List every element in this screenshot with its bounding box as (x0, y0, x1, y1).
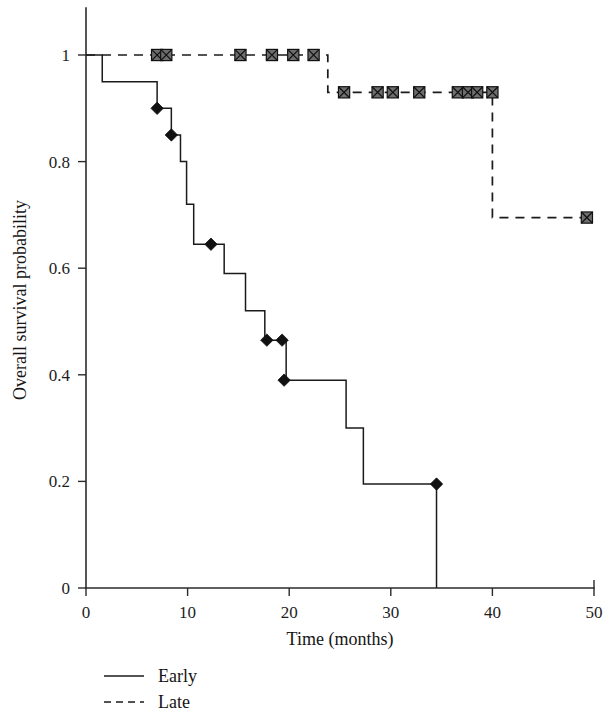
x-axis-title: Time (months) (287, 629, 394, 650)
legend-label-early: Early (158, 666, 197, 686)
survival-curve-figure: 00.20.40.60.81 01020304050 Time (months)… (0, 0, 606, 718)
event-marker-diamond (151, 102, 163, 114)
x-tick-label: 0 (82, 603, 91, 622)
series-line-early (86, 55, 437, 588)
x-tick-label: 50 (586, 603, 603, 622)
x-tick-label: 30 (382, 603, 399, 622)
y-axis-ticks: 00.20.40.60.81 (49, 46, 86, 598)
series-layer (86, 55, 587, 588)
marker-layer (151, 49, 593, 490)
x-tick-label: 20 (281, 603, 298, 622)
event-marker-diamond (430, 478, 442, 490)
y-tick-label: 0.8 (49, 153, 70, 172)
x-axis-ticks: 01020304050 (82, 588, 603, 622)
chart-legend: EarlyLate (104, 666, 197, 712)
y-tick-label: 0.4 (49, 366, 71, 385)
event-marker-diamond (278, 374, 290, 386)
event-marker-diamond (205, 238, 217, 250)
x-tick-label: 10 (179, 603, 196, 622)
y-tick-label: 0.2 (49, 472, 70, 491)
kaplan-meier-plot: 00.20.40.60.81 01020304050 Time (months)… (0, 0, 606, 718)
y-tick-label: 1 (62, 46, 71, 65)
series-line-late (86, 55, 587, 218)
y-tick-label: 0.6 (49, 259, 70, 278)
y-axis-title: Overall survival probability (10, 200, 30, 400)
event-marker-diamond (261, 334, 273, 346)
y-tick-label: 0 (62, 579, 71, 598)
legend-label-late: Late (158, 692, 190, 712)
x-tick-label: 40 (484, 603, 501, 622)
event-marker-diamond (165, 129, 177, 141)
